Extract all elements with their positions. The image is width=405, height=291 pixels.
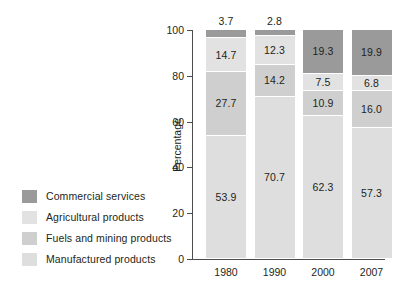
bar-segment-label: 70.7 (264, 172, 285, 183)
bar-segment (206, 30, 246, 38)
bar-segment: 62.3 (303, 116, 343, 259)
bar-segment: 14.7 (206, 38, 246, 72)
bar-segment-label: 57.3 (361, 188, 382, 199)
legend-item: Commercial services (22, 186, 192, 207)
bar-segment: 27.7 (206, 72, 246, 135)
bar-segment-label: 6.8 (364, 78, 379, 89)
bar-segment-label: 14.2 (264, 75, 285, 86)
bar-segment: 19.3 (303, 30, 343, 74)
bar-segment-label: 27.7 (215, 98, 236, 109)
y-tick-label: 0 (178, 254, 184, 265)
bar-segment-label: 7.5 (315, 77, 330, 88)
bar-segment-label: 10.9 (312, 98, 333, 109)
y-tick-label: 100 (166, 25, 184, 36)
bar-segment: 10.9 (303, 91, 343, 116)
bar-2007: 19.96.816.057.32007 (352, 30, 392, 259)
legend-item-label: Agricultural products (46, 211, 144, 224)
bar-segment-label: 62.3 (312, 182, 333, 193)
legend-swatch-icon (22, 190, 37, 203)
bar-1990: 2.812.314.270.71990 (255, 30, 295, 259)
x-tick-label: 1990 (255, 267, 295, 278)
stacked-bar-chart-figure: Commercial servicesAgricultural products… (0, 0, 405, 291)
bar-segment-label: 16.0 (361, 104, 382, 115)
y-tick-label: 20 (172, 208, 184, 219)
legend-item-label: Commercial services (46, 190, 145, 203)
bar-segment-label-above: 3.7 (206, 16, 246, 27)
y-tick-mark (187, 76, 192, 77)
bar-segment-label: 53.9 (215, 192, 236, 203)
bar-segment: 16.0 (352, 91, 392, 128)
bar-segment: 53.9 (206, 136, 246, 259)
bar-segment: 6.8 (352, 76, 392, 92)
legend-item: Agricultural products (22, 207, 192, 228)
y-tick-mark (187, 213, 192, 214)
y-tick-label: 60 (172, 116, 184, 127)
x-tick-label: 2007 (352, 267, 392, 278)
legend-item: Manufactured products (22, 249, 192, 270)
bar-segment-label: 19.3 (312, 46, 333, 57)
y-tick-mark (187, 122, 192, 123)
bar-segment-label: 14.7 (215, 50, 236, 61)
legend-item-label: Fuels and mining products (46, 232, 172, 245)
y-tick-mark (187, 259, 192, 260)
bar-segment: 19.9 (352, 30, 392, 76)
bar-segment: 7.5 (303, 74, 343, 91)
bar-segment: 12.3 (255, 36, 295, 64)
y-tick-label: 80 (172, 71, 184, 82)
bar-segment: 14.2 (255, 65, 295, 98)
y-tick-mark (187, 167, 192, 168)
y-tick-mark (187, 30, 192, 31)
bar-segment-label-above: 2.8 (255, 16, 295, 27)
bar-1980: 3.714.727.753.91980 (206, 30, 246, 259)
bar-2000: 19.37.510.962.32000 (303, 30, 343, 259)
legend-item-label: Manufactured products (46, 253, 156, 266)
y-tick-label: 40 (172, 162, 184, 173)
x-tick-label: 2000 (303, 267, 343, 278)
bar-segment: 57.3 (352, 128, 392, 259)
x-tick-label: 1980 (206, 267, 246, 278)
y-axis-line (192, 30, 193, 259)
chart-legend: Commercial servicesAgricultural products… (22, 186, 192, 270)
legend-swatch-icon (22, 253, 37, 266)
plot-area: Percentage 020406080100 3.714.727.753.91… (192, 30, 385, 259)
legend-swatch-icon (22, 211, 37, 224)
bar-segment: 70.7 (255, 97, 295, 259)
bar-segment-label: 12.3 (264, 45, 285, 56)
x-axis-line (192, 259, 385, 260)
bar-segment-label: 19.9 (361, 47, 382, 58)
legend-item: Fuels and mining products (22, 228, 192, 249)
legend-swatch-icon (22, 232, 37, 245)
